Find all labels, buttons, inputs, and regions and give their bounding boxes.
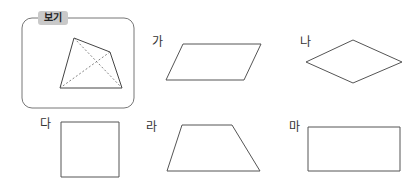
label-da: 다 (40, 118, 51, 130)
example-box-border (22, 18, 134, 108)
label-ga: 가 (152, 36, 163, 48)
diagonal-2 (60, 52, 110, 88)
label-na: 나 (300, 36, 311, 48)
example-label: 보기 (38, 11, 68, 25)
label-ra: 라 (146, 121, 157, 133)
shape-ma-rectangle (308, 127, 400, 171)
shape-ra-trapezoid (167, 125, 260, 171)
shape-da-square (61, 122, 119, 177)
shape-na-rhombus (306, 40, 402, 83)
shape-ga-parallelogram (166, 44, 261, 80)
diagonal-1 (74, 38, 122, 88)
example-quadrilateral (60, 38, 122, 88)
diagram-canvas (0, 0, 418, 187)
label-ma: 마 (289, 121, 300, 133)
